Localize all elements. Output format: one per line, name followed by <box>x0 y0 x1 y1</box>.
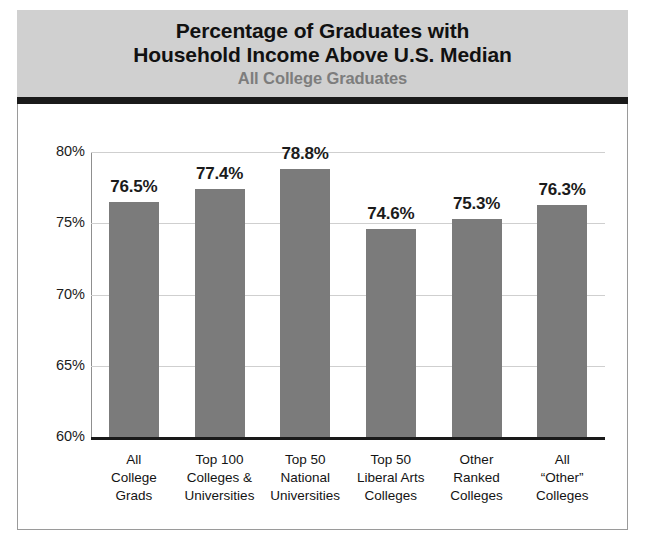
bar-value-label: 78.8% <box>260 144 350 164</box>
bar-value-label: 75.3% <box>432 194 522 214</box>
chart-header-band: Percentage of Graduates with Household I… <box>17 10 628 97</box>
bar <box>366 229 416 437</box>
bar <box>537 205 587 437</box>
page-title: Percentage of Graduates with Household I… <box>133 19 512 66</box>
y-tick-label: 60% <box>33 428 85 444</box>
bar <box>109 202 159 437</box>
chart-figure: Percentage of Graduates with Household I… <box>0 0 648 547</box>
y-tick-label: 65% <box>33 357 85 373</box>
y-tick-label: 80% <box>33 143 85 159</box>
chart-subtitle: All College Graduates <box>238 69 407 88</box>
gridline-70% <box>91 295 605 296</box>
bar-value-label: 76.5% <box>89 177 179 197</box>
category-label: All “Other” Colleges <box>507 451 617 504</box>
y-tick-label: 75% <box>33 214 85 230</box>
header-divider <box>17 97 628 104</box>
x-axis-line <box>91 437 605 440</box>
bar-value-label: 77.4% <box>175 164 265 184</box>
bar <box>452 219 502 437</box>
y-axis-tick-labels: 60%65%70%75%80% <box>30 0 85 547</box>
y-tick-label: 70% <box>33 286 85 302</box>
gridline-65% <box>91 366 605 367</box>
bar <box>280 169 330 437</box>
bar <box>195 189 245 437</box>
bar-value-label: 76.3% <box>517 180 607 200</box>
bar-value-label: 74.6% <box>346 204 436 224</box>
